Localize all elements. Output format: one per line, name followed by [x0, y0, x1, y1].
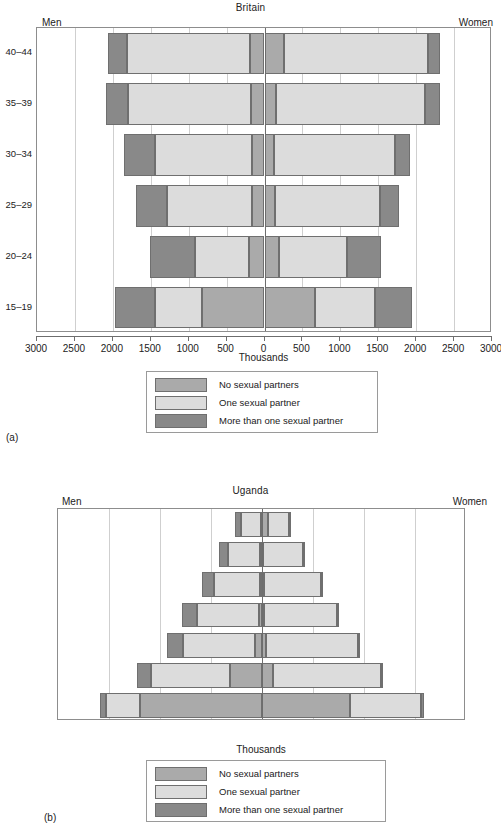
y-tick-label: 20–24 — [0, 250, 32, 261]
bar-segment — [197, 603, 259, 628]
bar-segment — [289, 512, 291, 537]
bar-segment — [202, 287, 265, 329]
bar-segment — [375, 287, 411, 329]
x-axis-title-britain: Thousands — [36, 352, 491, 363]
legend-britain: No sexual partnersOne sexual partnerMore… — [146, 371, 378, 433]
bar-segment — [214, 572, 260, 597]
bar-segment — [265, 83, 276, 125]
bar-row — [37, 185, 490, 227]
bar-segment — [395, 134, 410, 176]
bar-segment — [155, 134, 253, 176]
bar-segment — [265, 236, 279, 278]
centre-axis-line — [262, 509, 263, 719]
bar-row — [58, 693, 464, 718]
bar-row — [37, 83, 490, 125]
bar-row — [58, 663, 464, 688]
plot-area-britain — [36, 27, 491, 332]
bar-segment — [428, 33, 440, 75]
bar-segment — [347, 236, 380, 278]
legend-swatch — [155, 396, 207, 410]
panel-tag-b: (b) — [44, 812, 56, 823]
x-tick — [74, 336, 75, 341]
bar-segment — [250, 33, 264, 75]
y-tick-label: 25–29 — [0, 199, 32, 210]
legend-item: No sexual partners — [155, 377, 371, 394]
bar-segment — [115, 287, 154, 329]
bar-segment — [276, 83, 425, 125]
bar-segment — [425, 83, 439, 125]
bar-segment — [252, 185, 265, 227]
bar-segment — [167, 633, 183, 658]
bar-segment — [265, 287, 315, 329]
legend-label: More than one sexual partner — [219, 804, 343, 815]
x-tick — [339, 336, 340, 341]
legend-swatch — [155, 378, 207, 392]
bar-segment — [100, 693, 106, 718]
legend-label: More than one sexual partner — [219, 415, 343, 426]
bar-segment — [235, 512, 240, 537]
bar-segment — [251, 83, 265, 125]
plot-area-uganda — [57, 508, 465, 720]
bar-segment — [266, 633, 358, 658]
bar-segment — [228, 542, 261, 567]
x-tick — [491, 336, 492, 341]
bar-segment — [255, 633, 262, 658]
bar-row — [58, 633, 464, 658]
legend-item: More than one sexual partner — [155, 413, 371, 430]
x-tick — [150, 336, 151, 341]
bar-segment — [303, 542, 305, 567]
bar-segment — [337, 603, 339, 628]
bar-segment — [106, 83, 128, 125]
x-tick — [226, 336, 227, 341]
legend-item: No sexual partners — [155, 766, 379, 783]
chart-title-uganda: Uganda — [0, 485, 501, 496]
bar-segment — [380, 185, 400, 227]
women-label-uganda: Women — [453, 496, 487, 507]
x-tick — [264, 336, 265, 341]
bar-segment — [124, 134, 154, 176]
bar-segment — [264, 603, 337, 628]
y-tick-label: 30–34 — [0, 148, 32, 159]
bar-segment — [421, 693, 424, 718]
bar-segment — [279, 236, 347, 278]
bar-segment — [182, 603, 196, 628]
bar-row — [58, 542, 464, 567]
bar-segment — [275, 185, 380, 227]
bar-segment — [106, 693, 140, 718]
x-tick — [112, 336, 113, 341]
legend-swatch — [155, 803, 207, 817]
bar-segment — [108, 33, 127, 75]
bar-row — [37, 287, 490, 329]
bar-segment — [273, 663, 381, 688]
bar-row — [58, 603, 464, 628]
bar-segment — [202, 572, 214, 597]
bar-segment — [151, 663, 231, 688]
bar-row — [58, 572, 464, 597]
bar-segment — [358, 633, 360, 658]
bar-segment — [241, 512, 261, 537]
bar-segment — [183, 633, 254, 658]
x-tick — [188, 336, 189, 341]
bar-segment — [219, 542, 228, 567]
x-tick — [36, 336, 37, 341]
panel-uganda: Uganda Men Women 15–1920–2425–2930–3435–… — [0, 460, 501, 833]
bar-segment — [265, 134, 274, 176]
panel-britain: Britain Men Women 15–1920–2425–2930–3435… — [0, 0, 501, 460]
bar-segment — [262, 663, 273, 688]
y-tick-label: 35–39 — [0, 97, 32, 108]
x-tick — [415, 336, 416, 341]
bar-segment — [274, 134, 395, 176]
legend-label: No sexual partners — [219, 379, 299, 390]
legend-label: No sexual partners — [219, 768, 299, 779]
legend-item: One sexual partner — [155, 784, 379, 801]
chart-title-britain: Britain — [0, 2, 501, 13]
bar-segment — [167, 185, 251, 227]
bar-segment — [252, 134, 264, 176]
x-tick — [453, 336, 454, 341]
legend-swatch — [155, 767, 207, 781]
men-label-uganda: Men — [62, 496, 81, 507]
bar-segment — [137, 663, 151, 688]
bar-segment — [155, 287, 202, 329]
bar-segment — [128, 83, 251, 125]
legend-item: One sexual partner — [155, 395, 371, 412]
